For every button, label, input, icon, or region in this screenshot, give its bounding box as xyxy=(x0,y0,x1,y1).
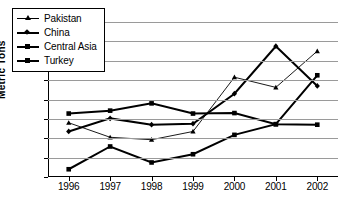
legend-marker-triangle xyxy=(25,15,31,20)
x-tick-label: 1996 xyxy=(58,182,79,192)
legend-marker-square xyxy=(25,44,30,49)
chart-legend: PakistanChinaCentral AsiaTurkey xyxy=(12,8,105,72)
y-tick-mark xyxy=(44,80,48,81)
y-tick-mark xyxy=(44,138,48,139)
data-point-marker xyxy=(274,122,279,127)
data-point-marker xyxy=(66,111,71,116)
data-point-marker xyxy=(191,152,196,157)
x-tick-label: 1997 xyxy=(99,182,120,192)
x-tick-label: 1999 xyxy=(182,182,203,192)
gridline xyxy=(48,119,338,120)
legend-label: Turkey xyxy=(44,56,74,66)
legend-label: China xyxy=(44,28,70,38)
legend-label: Pakistan xyxy=(44,14,82,24)
gridline xyxy=(48,138,338,139)
legend-item-pakistan[interactable]: Pakistan xyxy=(17,12,97,26)
data-point-marker xyxy=(315,73,320,78)
data-point-marker xyxy=(66,129,71,135)
data-point-marker xyxy=(149,122,154,128)
data-point-marker xyxy=(315,48,320,53)
data-point-marker xyxy=(108,144,113,149)
data-point-marker xyxy=(149,101,154,106)
gridline xyxy=(48,158,338,159)
y-tick-mark xyxy=(44,100,48,101)
data-point-marker xyxy=(149,160,154,165)
data-point-marker xyxy=(232,111,237,116)
data-point-marker xyxy=(315,122,320,127)
data-point-marker xyxy=(232,133,237,138)
legend-item-china[interactable]: China xyxy=(17,26,97,40)
legend-swatch xyxy=(17,28,39,38)
legend-swatch xyxy=(17,56,39,66)
x-tick-label: 2002 xyxy=(307,182,328,192)
legend-item-turkey[interactable]: Turkey xyxy=(17,54,97,68)
data-point-marker xyxy=(66,167,71,172)
legend-marker-square xyxy=(25,58,30,63)
x-tick-label: 2000 xyxy=(224,182,245,192)
data-point-marker xyxy=(108,108,113,113)
chart-container: Metric Tons 0246810121416 19961997199819… xyxy=(0,0,351,214)
legend-swatch xyxy=(17,14,39,24)
x-tick-label: 1998 xyxy=(141,182,162,192)
x-tick-label: 2001 xyxy=(265,182,286,192)
y-axis-title: Metric Tons xyxy=(0,40,7,99)
y-tick-mark xyxy=(44,177,48,178)
data-point-marker xyxy=(232,75,237,80)
data-point-marker xyxy=(66,120,71,125)
data-point-marker xyxy=(191,111,196,116)
gridline xyxy=(48,100,338,101)
y-tick-mark xyxy=(44,119,48,120)
y-tick-mark xyxy=(44,158,48,159)
legend-item-central-asia[interactable]: Central Asia xyxy=(17,40,97,54)
legend-swatch xyxy=(17,42,39,52)
gridline xyxy=(48,80,338,81)
legend-label: Central Asia xyxy=(44,42,97,52)
